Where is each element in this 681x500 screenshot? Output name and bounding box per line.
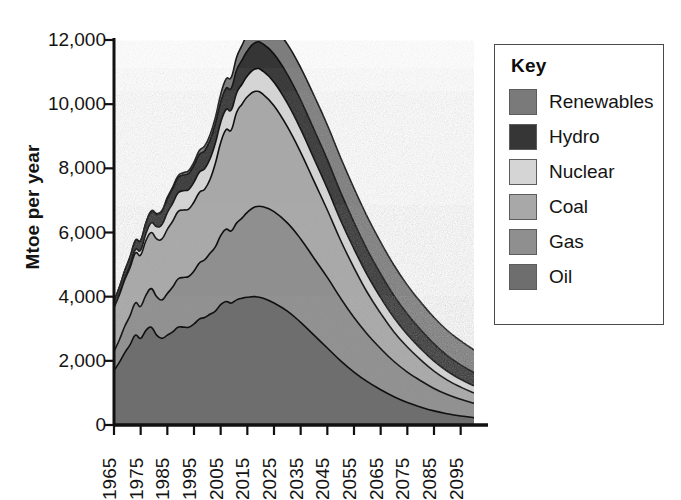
- legend-item-label: Gas: [549, 231, 584, 253]
- energy-outlook-stacked-area-chart: Mtoe per year 02,0004,0006,0008,00010,00…: [0, 0, 681, 500]
- legend-swatch: [509, 89, 537, 115]
- legend-swatch: [509, 194, 537, 220]
- legend-swatch: [509, 159, 537, 185]
- legend-item: Nuclear: [509, 154, 663, 189]
- legend-item: Gas: [509, 224, 663, 259]
- legend-swatch: [509, 264, 537, 290]
- legend-item: Coal: [509, 189, 663, 224]
- legend-item: Hydro: [509, 119, 663, 154]
- legend-title: Key: [511, 55, 663, 77]
- legend-items: RenewablesHydroNuclearCoalGasOil: [509, 84, 663, 294]
- legend-item-label: Oil: [549, 266, 572, 288]
- stacked-area-bands: [114, 21, 474, 425]
- legend-item-label: Nuclear: [549, 161, 614, 183]
- legend-item-label: Hydro: [549, 126, 600, 148]
- legend-item-label: Renewables: [549, 91, 654, 113]
- legend-item: Renewables: [509, 84, 663, 119]
- legend-swatch: [509, 229, 537, 255]
- chart-legend: Key RenewablesHydroNuclearCoalGasOil: [494, 44, 664, 325]
- legend-item-label: Coal: [549, 196, 588, 218]
- legend-swatch: [509, 124, 537, 150]
- legend-item: Oil: [509, 259, 663, 294]
